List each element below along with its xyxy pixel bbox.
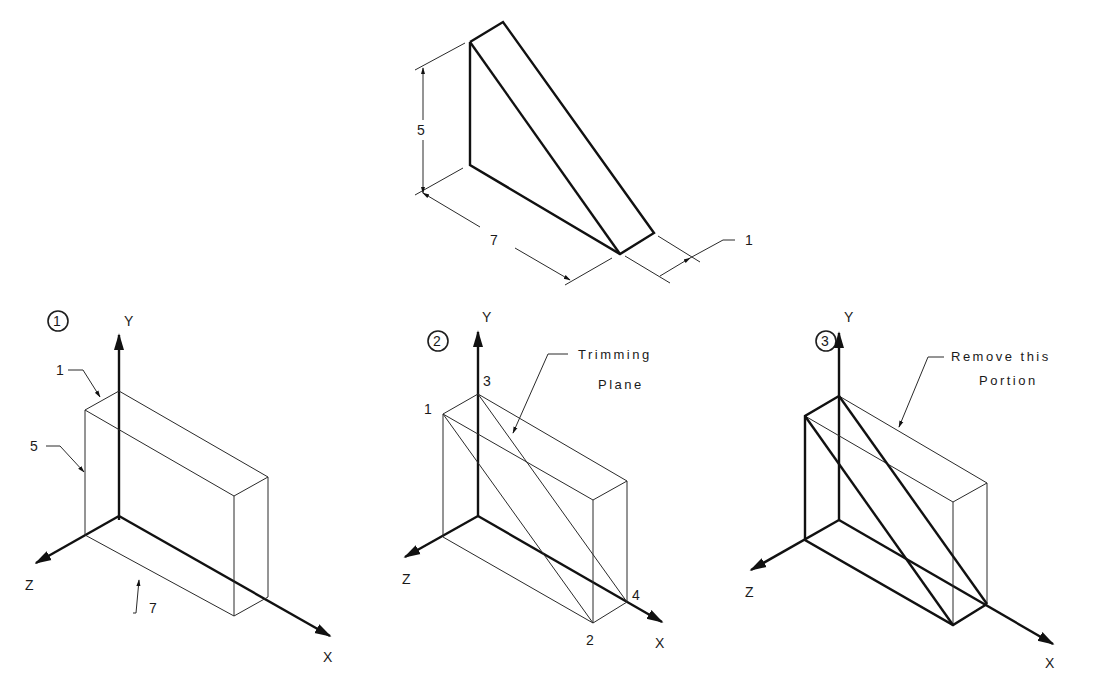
- y-axis-label: Y: [844, 309, 854, 325]
- callout-height: 5: [30, 438, 38, 454]
- callout-portion: Portion: [979, 373, 1038, 388]
- z-axis-label: Z: [402, 571, 411, 587]
- y-axis-label: Y: [124, 313, 134, 329]
- step1-block: [36, 311, 330, 636]
- z-axis-label: Z: [745, 584, 754, 600]
- x-axis: [119, 516, 330, 636]
- wedge-construction-diagram: 5 7 1 1 Y X Z 1 5 7 2 Y X Z 1 2 3: [0, 0, 1093, 691]
- leader-remove-portion: [899, 357, 944, 427]
- extension-line-thickness-b: [658, 236, 700, 262]
- trim-line-3-4: [478, 394, 627, 602]
- box-outline: [443, 394, 627, 623]
- box-front-top-edge: [85, 410, 268, 496]
- extension-line-bottom: [415, 168, 463, 195]
- dim-line-length-left: [423, 193, 480, 227]
- point-1-label: 1: [424, 401, 432, 417]
- callout-trimming: Trimming: [578, 347, 652, 362]
- step3-badge: 3: [821, 333, 829, 349]
- point-2-label: 2: [586, 632, 594, 648]
- extension-line-top: [415, 43, 465, 70]
- step2-block: [405, 331, 662, 623]
- trim-line-1-2: [443, 414, 593, 623]
- y-axis-label: Y: [482, 309, 492, 325]
- z-axis: [751, 520, 839, 570]
- dim-label-length: 7: [490, 232, 498, 248]
- box-outline: [85, 391, 268, 616]
- dim-line-length-right: [515, 248, 570, 280]
- wedge-slant-edge: [470, 42, 620, 254]
- wedge-outline: [470, 22, 654, 254]
- callout-thickness: 1: [56, 362, 64, 378]
- box-front-top-edge: [805, 416, 987, 502]
- leader-trimming-plane: [513, 354, 568, 433]
- dim-label-thickness: 1: [745, 232, 753, 248]
- leader-thickness: [68, 370, 100, 397]
- dim-label-height: 5: [417, 122, 425, 138]
- x-axis: [478, 516, 662, 622]
- leader-height: [46, 446, 84, 472]
- point-3-label: 3: [483, 373, 491, 389]
- extension-line-thickness-a: [625, 256, 670, 283]
- step1-badge: 1: [53, 313, 61, 329]
- z-axis: [36, 516, 119, 563]
- leader-length: [133, 580, 139, 613]
- x-axis-label: X: [323, 649, 333, 665]
- x-axis: [839, 520, 1053, 644]
- step2-badge: 2: [433, 333, 441, 349]
- finished-wedge-view: [415, 22, 735, 285]
- extension-line-length-end: [565, 258, 612, 285]
- callout-length: 7: [149, 600, 157, 616]
- x-axis-label: X: [1045, 655, 1055, 671]
- point-4-label: 4: [632, 587, 640, 603]
- dim-line-thickness: [660, 258, 690, 276]
- wedge-slant-front: [805, 416, 953, 625]
- callout-plane: Plane: [598, 377, 644, 392]
- z-axis-label: Z: [25, 577, 34, 593]
- callout-remove-this: Remove this: [951, 349, 1051, 364]
- x-axis-label: X: [655, 635, 665, 651]
- leader-thickness: [690, 240, 735, 258]
